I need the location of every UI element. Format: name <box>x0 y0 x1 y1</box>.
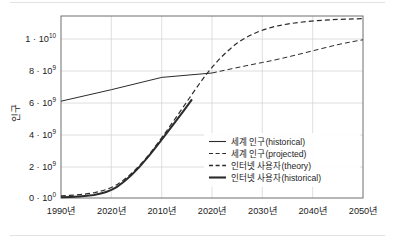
x-tick-label-4: 2030년 <box>248 206 276 216</box>
y-tick-label-1e10: 1 · 1010 <box>25 32 56 44</box>
y-axis-title: 인구 <box>10 104 21 122</box>
legend-label-2: 인터넷 사용자(theory) <box>231 161 311 171</box>
y-tick-label-4e9: 4 · 109 <box>29 128 57 140</box>
y-tick-label-8e9: 8 · 109 <box>29 64 57 76</box>
legend-label-1: 세계 인구(projected) <box>231 148 307 159</box>
y-tick-label-6e9: 6 · 109 <box>29 96 57 108</box>
bottom-divider <box>10 235 385 236</box>
x-tick-label-2: 2010년 <box>147 206 175 216</box>
x-tick-label-6: 2050년 <box>349 206 377 216</box>
chart-legend: 세계 인구(historical) 세계 인구(projected) 인터넷 사… <box>204 133 360 187</box>
y-tick-label-0: 0 · 100 <box>29 191 57 203</box>
y-axis-tick-labels: 1 · 1010 8 · 109 6 · 109 4 · 109 2 · 109… <box>25 32 56 203</box>
x-tick-label-3: 2020년 <box>198 206 226 216</box>
x-axis-tick-labels: 1990년 2020년 2010년 2020년 2030년 2040년 2050… <box>47 206 377 216</box>
chart-figure: 1 · 1010 8 · 109 6 · 109 4 · 109 2 · 109… <box>0 0 395 242</box>
population-internet-line-chart: 1 · 1010 8 · 109 6 · 109 4 · 109 2 · 109… <box>0 0 395 242</box>
x-tick-label-5: 2040년 <box>298 206 326 216</box>
top-divider <box>10 2 385 3</box>
y-tick-label-2e9: 2 · 109 <box>29 160 57 172</box>
legend-label-0: 세계 인구(historical) <box>231 136 305 147</box>
legend-label-3: 인터넷 사용자(historical) <box>231 173 321 183</box>
x-tick-label-1: 2020년 <box>97 206 125 216</box>
series-line-world-population-historical <box>61 73 212 101</box>
x-tick-label-0: 1990년 <box>47 206 75 216</box>
series-line-internet-users-historical <box>61 99 192 197</box>
